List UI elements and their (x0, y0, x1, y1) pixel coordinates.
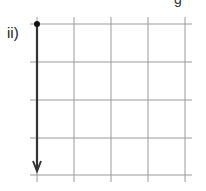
vector-arrow (33, 21, 41, 171)
start-point-dot (34, 21, 40, 27)
grid-lines (30, 17, 192, 182)
grid-diagram (0, 0, 206, 191)
